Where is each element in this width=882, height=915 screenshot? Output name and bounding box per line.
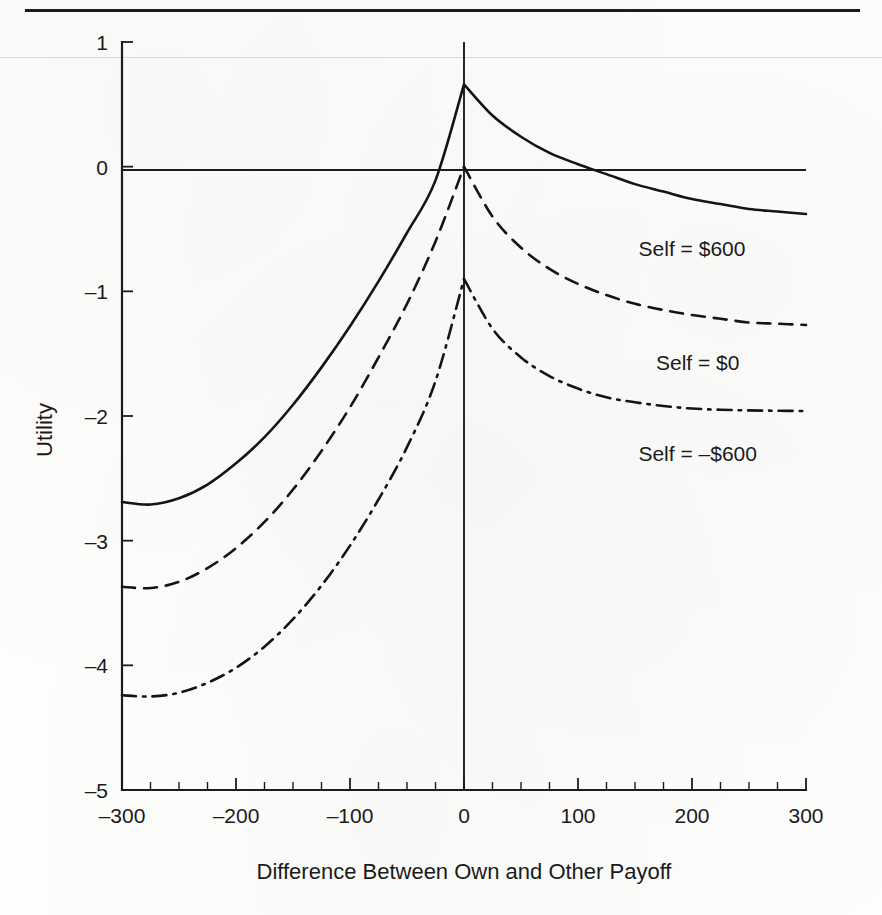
- x-tick-label: 0: [458, 804, 470, 827]
- y-tick-label: 1: [96, 31, 108, 54]
- x-axis-ticks: [122, 778, 806, 790]
- x-tick-label: 100: [560, 804, 595, 827]
- y-tick-label: –1: [85, 280, 108, 303]
- x-tick-label: 200: [674, 804, 709, 827]
- y-tick-label: –2: [85, 405, 108, 428]
- series-label: Self = $600: [639, 237, 746, 260]
- x-axis-title: Difference Between Own and Other Payoff: [257, 859, 673, 884]
- y-tick-label: –5: [85, 779, 108, 802]
- y-tick-label: 0: [96, 156, 108, 179]
- y-axis-ticks: [122, 42, 133, 790]
- series-annotations: Self = $600Self = $0Self = –$600: [638, 237, 757, 464]
- x-axis-tick-labels: –300–200–1000100200300: [99, 804, 824, 827]
- y-axis-tick-labels: 10–1–2–3–4–5: [85, 31, 109, 802]
- series-label: Self = –$600: [638, 442, 757, 465]
- x-tick-label: –100: [327, 804, 374, 827]
- x-tick-label: –300: [99, 804, 146, 827]
- x-tick-label: 300: [788, 804, 823, 827]
- y-tick-label: –3: [85, 530, 108, 553]
- x-tick-label: –200: [213, 804, 260, 827]
- utility-chart: –300–200–1000100200300 10–1–2–3–4–5 Self…: [0, 0, 882, 915]
- figure-page: –300–200–1000100200300 10–1–2–3–4–5 Self…: [0, 0, 882, 915]
- series-label: Self = $0: [656, 351, 739, 374]
- y-axis-title: Utility: [32, 403, 57, 457]
- y-tick-label: –4: [85, 654, 109, 677]
